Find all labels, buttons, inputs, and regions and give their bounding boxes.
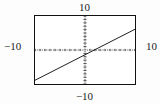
plot-canvas	[35, 16, 135, 84]
viewport-ymin-label: −10	[9, 91, 160, 102]
viewport-xmin-label: −10	[4, 41, 21, 52]
viewport-ymax-label: 10	[9, 2, 160, 13]
viewport-xmax-label: 10	[146, 41, 157, 52]
plot-frame	[34, 15, 136, 85]
graph-screenshot: 10 −10 10 −10	[0, 0, 160, 104]
